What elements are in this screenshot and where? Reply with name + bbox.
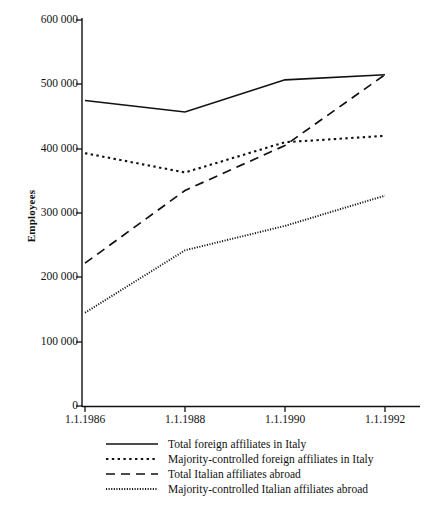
legend-swatch-fine-dotted (104, 482, 160, 496)
legend-swatch-dotted (104, 452, 160, 466)
legend-swatch-solid (104, 437, 160, 451)
legend-label-0: Total foreign affiliates in Italy (160, 437, 306, 451)
legend-label-1: Majority-controlled foreign affiliates i… (160, 452, 373, 466)
series-line-3 (85, 196, 385, 313)
series-line-2 (85, 75, 385, 264)
legend-swatch-dashed (104, 467, 160, 481)
series-line-1 (85, 136, 385, 173)
legend-label-2: Total Italian affiliates abroad (160, 467, 301, 481)
legend-item-total-foreign-affiliates-in-italy: Total foreign affiliates in Italy (104, 436, 448, 451)
chart-figure: Employees 600 000 500 000 400 000 300 00… (0, 0, 448, 510)
legend-item-majority-controlled-foreign-affiliates-in-italy: Majority-controlled foreign affiliates i… (104, 451, 448, 466)
legend-item-total-italian-affiliates-abroad: Total Italian affiliates abroad (104, 466, 448, 481)
chart-legend: Total foreign affiliates in Italy Majori… (104, 436, 448, 496)
legend-item-majority-controlled-italian-affiliates-abroad: Majority-controlled Italian affiliates a… (104, 481, 448, 496)
plot-area (0, 0, 448, 510)
data-series-layer (85, 75, 385, 313)
y-tick-marks (76, 20, 82, 406)
legend-label-3: Majority-controlled Italian affiliates a… (160, 482, 368, 496)
